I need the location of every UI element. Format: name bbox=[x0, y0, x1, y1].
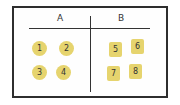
column-divider bbox=[90, 16, 91, 92]
item-square: 6 bbox=[131, 39, 144, 54]
column-a-header: A bbox=[53, 13, 67, 23]
item-circle: 3 bbox=[32, 65, 47, 80]
item-circle: 2 bbox=[59, 41, 74, 56]
item-square: 5 bbox=[109, 42, 122, 57]
column-b-header: B bbox=[114, 13, 128, 23]
item-square: 8 bbox=[129, 64, 142, 79]
item-square: 7 bbox=[107, 66, 120, 81]
item-circle: 1 bbox=[32, 41, 47, 56]
item-circle: 4 bbox=[56, 65, 71, 80]
